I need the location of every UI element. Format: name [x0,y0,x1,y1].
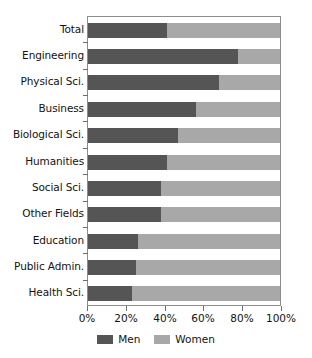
category-label-other-fields: Other Fields [0,208,84,219]
bar-row [88,181,280,196]
x-tick [126,306,127,311]
x-tick [87,306,88,311]
bar-segment-men [88,234,138,249]
bar-segment-men [88,75,219,90]
bar-row [88,260,280,275]
legend-swatch-men [97,335,113,344]
bar-segment-women [161,181,280,196]
bar-segment-men [88,23,167,38]
x-tick-label: 0% [67,312,107,324]
bar-segment-men [88,181,161,196]
category-label-education: Education [0,235,84,246]
x-tick-label: 80% [222,312,262,324]
legend-label-men: Men [118,333,140,345]
y-tick [83,201,88,202]
bar-segment-women [167,155,280,170]
bar-segment-men [88,207,161,222]
x-tick-label: 100% [261,312,301,324]
x-tick [242,306,243,311]
bar-row [88,207,280,222]
legend-label-women: Women [175,333,215,345]
x-tick [281,306,282,311]
bar-segment-men [88,286,132,301]
category-label-biological-sci: Biological Sci. [0,129,84,140]
bar-segment-women [196,102,280,117]
x-tick-label: 20% [106,312,146,324]
bar-segment-women [161,207,280,222]
bar-segment-women [136,260,280,275]
plot-area [87,16,281,306]
bar-row [88,23,280,38]
bar-row [88,234,280,249]
bar-segment-women [167,23,280,38]
y-tick [83,280,88,281]
y-tick [83,69,88,70]
bar-segment-men [88,155,167,170]
bar-segment-women [219,75,280,90]
chart-legend: MenWomen [0,333,312,345]
x-tick-label: 60% [183,312,223,324]
bar-row [88,286,280,301]
y-tick [83,174,88,175]
y-tick [83,121,88,122]
bar-row [88,49,280,64]
category-label-total: Total [0,24,84,35]
bar-segment-men [88,128,178,143]
legend-swatch-women [154,335,170,344]
stacked-bar-chart: TotalEngineeringPhysical Sci.BusinessBio… [0,0,312,358]
bar-segment-women [138,234,280,249]
x-tick [203,306,204,311]
y-tick [83,253,88,254]
category-label-humanities: Humanities [0,156,84,167]
y-tick [83,148,88,149]
bar-segment-men [88,49,238,64]
legend-item-women[interactable]: Women [154,333,215,345]
category-label-public-admin: Public Admin. [0,261,84,272]
bar-row [88,102,280,117]
category-label-engineering: Engineering [0,50,84,61]
bar-segment-women [178,128,280,143]
y-tick [83,227,88,228]
bar-segment-men [88,102,196,117]
category-label-health-sci: Health Sci. [0,287,84,298]
category-label-business: Business [0,103,84,114]
x-tick-label: 40% [145,312,185,324]
bar-segment-women [238,49,280,64]
bar-row [88,75,280,90]
legend-item-men[interactable]: Men [97,333,140,345]
bar-segment-men [88,260,136,275]
category-axis-labels: TotalEngineeringPhysical Sci.BusinessBio… [0,16,84,306]
category-label-physical-sci: Physical Sci. [0,76,84,87]
y-tick [83,42,88,43]
bar-row [88,128,280,143]
category-label-social-sci: Social Sci. [0,182,84,193]
bar-segment-women [132,286,280,301]
y-tick [83,95,88,96]
x-tick [165,306,166,311]
bars-container [88,17,280,305]
bar-row [88,155,280,170]
